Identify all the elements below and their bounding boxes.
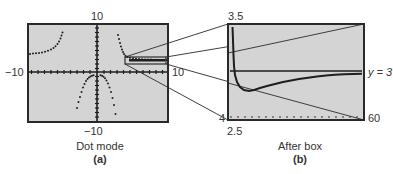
panel-a-screen bbox=[28, 24, 168, 122]
panel-a-x-min-label: −10 bbox=[5, 66, 24, 78]
panel-b-caption: After box bbox=[260, 140, 340, 153]
panel-b-x-max-label: 60 bbox=[368, 112, 380, 124]
panel-a-caption: Dot mode bbox=[60, 140, 140, 153]
panel-b-x-min-label: 2.5 bbox=[227, 125, 242, 137]
panel-b-sublabel: (b) bbox=[260, 153, 340, 166]
panel-a-graph bbox=[28, 24, 168, 122]
panel-a-y-max-label: 10 bbox=[91, 10, 103, 22]
panel-b-y-top-label: 3.5 bbox=[228, 10, 243, 22]
panel-a-y-min-label: −10 bbox=[84, 125, 103, 137]
panel-a-sublabel: (a) bbox=[60, 153, 140, 166]
panel-b-asymptote-label: y = 3 bbox=[368, 66, 392, 78]
panel-b-graph bbox=[228, 24, 364, 120]
panel-a-x-max-label: 10 bbox=[172, 66, 184, 78]
panel-b-y-bottom-label: 4 bbox=[219, 112, 225, 124]
